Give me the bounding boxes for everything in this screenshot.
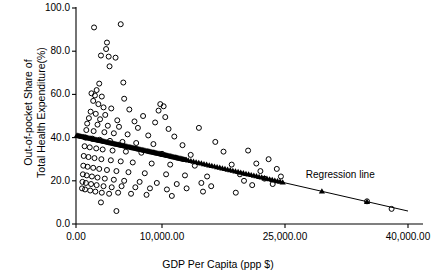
y-tick-label: 40.0	[24, 132, 70, 143]
regression-line-annotation: Regression line	[306, 169, 375, 180]
data-point	[154, 180, 159, 185]
data-point	[146, 133, 151, 138]
data-point	[123, 149, 128, 154]
data-point	[80, 186, 85, 191]
data-point	[188, 152, 193, 157]
data-point	[100, 147, 105, 152]
data-point	[254, 161, 259, 166]
data-point	[95, 122, 100, 127]
data-point	[89, 174, 94, 179]
data-point	[110, 148, 115, 153]
data-point	[114, 209, 119, 214]
data-point	[182, 173, 187, 178]
scatter-chart: Out-of-pocket Share of Total Health Expe…	[0, 0, 436, 279]
data-point	[117, 124, 122, 129]
data-point	[97, 81, 102, 86]
data-point	[135, 125, 140, 130]
data-point	[274, 166, 279, 171]
data-point	[209, 184, 214, 189]
data-point	[84, 128, 89, 133]
data-point	[125, 132, 130, 137]
data-point	[205, 174, 210, 179]
x-axis-title: GDP Per Capita (ppp $)	[0, 258, 436, 270]
data-point	[107, 64, 112, 69]
data-point	[164, 187, 169, 192]
x-tick-label: 0.00	[31, 231, 121, 242]
data-point	[81, 153, 86, 158]
data-point	[130, 160, 135, 165]
data-point	[166, 126, 171, 131]
data-point	[86, 155, 91, 160]
data-point	[114, 169, 119, 174]
data-point	[116, 190, 121, 195]
data-point	[85, 121, 90, 126]
data-point	[109, 185, 114, 190]
data-point	[102, 176, 107, 181]
data-point	[99, 190, 104, 195]
data-point	[184, 186, 189, 191]
data-point	[133, 185, 138, 190]
y-tick-label: 60.0	[24, 88, 70, 99]
data-point	[250, 183, 255, 188]
data-point	[109, 106, 114, 111]
data-point	[180, 143, 185, 148]
data-point	[142, 171, 147, 176]
data-point	[156, 108, 161, 113]
data-point	[111, 177, 116, 182]
data-point	[172, 134, 177, 139]
data-point	[104, 40, 109, 45]
data-point	[163, 115, 168, 120]
data-point	[95, 175, 100, 180]
axis-lines	[76, 7, 423, 224]
data-point	[97, 166, 102, 171]
data-point	[134, 141, 139, 146]
y-tick-label: 80.0	[24, 45, 70, 56]
data-point	[94, 88, 99, 93]
data-point	[201, 189, 206, 194]
data-point	[137, 179, 142, 184]
data-point	[168, 162, 173, 167]
data-point	[94, 183, 99, 188]
data-point	[258, 169, 263, 174]
y-tick-label: 100.0	[24, 2, 70, 13]
data-point	[126, 170, 131, 175]
data-point	[129, 191, 134, 196]
data-point	[88, 188, 93, 193]
data-point	[103, 112, 108, 117]
data-point	[132, 119, 137, 124]
data-point	[99, 94, 104, 99]
data-point	[151, 142, 156, 147]
data-point	[127, 107, 132, 112]
x-tick-label: 25,000.00	[240, 231, 330, 242]
data-point	[101, 105, 106, 110]
data-point	[93, 189, 98, 194]
data-point	[88, 109, 93, 114]
data-point	[278, 174, 283, 179]
data-point	[141, 114, 146, 119]
data-point	[96, 102, 101, 107]
data-point	[89, 182, 94, 187]
data-point	[107, 191, 112, 196]
data-point	[91, 98, 96, 103]
data-point	[213, 139, 218, 144]
data-point	[105, 123, 110, 128]
data-point	[91, 165, 96, 170]
data-point	[111, 131, 116, 136]
data-point	[233, 190, 238, 195]
data-point	[169, 193, 174, 198]
data-point	[266, 157, 271, 162]
data-point	[83, 187, 88, 192]
data-point	[118, 159, 123, 164]
data-point	[164, 172, 169, 177]
x-tick-label: 40,000.00	[363, 231, 436, 242]
data-point	[246, 148, 251, 153]
data-point	[108, 158, 113, 163]
data-point	[94, 146, 99, 151]
data-point	[104, 47, 109, 52]
data-point	[115, 118, 120, 123]
data-point	[98, 117, 103, 122]
scatter-points	[80, 22, 395, 214]
data-point	[174, 182, 179, 187]
data-point	[101, 184, 106, 189]
data-point	[86, 116, 91, 121]
